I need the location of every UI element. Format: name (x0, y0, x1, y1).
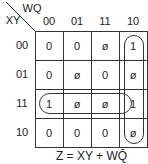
col-header-01: 01 (63, 15, 91, 27)
col-variable-label: WQ (20, 2, 44, 14)
cell-00-00: 0 (35, 31, 63, 60)
cell-10-11: 0 (91, 118, 119, 147)
col-header-10: 10 (119, 15, 147, 27)
cell-00-11: ø (91, 31, 119, 60)
cell-00-01: 0 (63, 31, 91, 60)
grid-line (35, 147, 148, 148)
group-loop-wq-bar (124, 35, 144, 144)
equation: Z = XY + WQ̄ (35, 149, 148, 163)
row-header-00: 00 (12, 39, 32, 51)
row-variable-label: XY (2, 14, 24, 26)
row-header-10: 10 (12, 126, 32, 138)
cell-10-01: 0 (63, 118, 91, 147)
cell-01-00: 0 (35, 60, 63, 89)
cell-10-00: 0 (35, 118, 63, 147)
row-header-11: 11 (12, 97, 32, 109)
group-loop-xy (39, 93, 132, 114)
cell-01-01: ø (63, 60, 91, 89)
col-header-00: 00 (35, 15, 63, 27)
cell-01-11: 0 (91, 60, 119, 89)
row-header-01: 01 (12, 68, 32, 80)
col-header-11: 11 (91, 15, 119, 27)
